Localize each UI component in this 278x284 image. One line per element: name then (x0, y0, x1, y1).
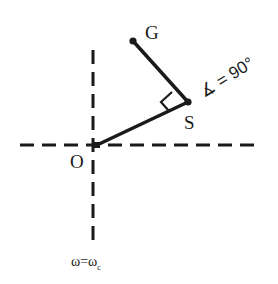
right-angle-marker (161, 92, 172, 111)
label-g: G (145, 22, 159, 43)
segment-sg (133, 41, 188, 102)
label-o: O (70, 151, 84, 172)
angle-annotation: ∡ = 90° (196, 53, 257, 101)
diagram-canvas: G S O ∡ = 90° ω=ωc (0, 0, 278, 284)
point-s-dot (184, 98, 191, 105)
axis-condition-main: ω=ω (71, 254, 97, 269)
segment-os (97, 102, 188, 145)
label-s: S (184, 112, 195, 133)
point-o-marker (94, 142, 100, 148)
point-g-dot (129, 37, 136, 44)
axis-condition-label: ω=ωc (71, 254, 101, 272)
axis-condition-subscript: c (97, 263, 101, 272)
